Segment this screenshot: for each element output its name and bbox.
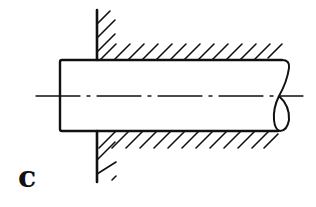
figure-label: c [18,162,36,192]
bottom-hatch [99,131,278,148]
wall-hatch-upper [97,11,115,52]
shaft-in-wall-diagram [0,0,316,207]
top-hatch [100,44,282,60]
